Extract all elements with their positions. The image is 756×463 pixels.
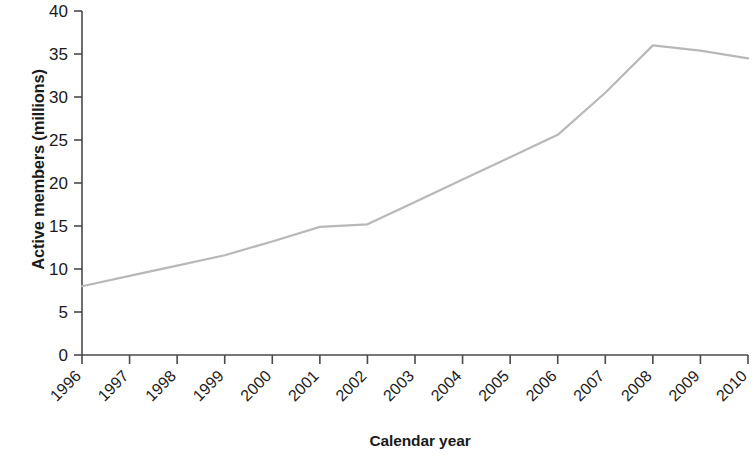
x-tick-label: 2009 (665, 367, 702, 404)
y-tick-label: 40 (49, 2, 68, 21)
x-tick-label: 2006 (523, 367, 560, 404)
x-tick-label: 2010 (713, 367, 750, 404)
x-tick-label: 1998 (142, 367, 179, 404)
x-tick-label: 2007 (570, 367, 607, 404)
x-tick-label: 1996 (47, 367, 84, 404)
y-tick-label: 20 (49, 174, 68, 193)
x-tick-label: 2003 (380, 367, 417, 404)
x-axis-tick-labels: 1996199719981999200020012002200320042005… (47, 367, 750, 404)
x-tick-label: 2004 (428, 367, 465, 404)
y-tick-label: 0 (59, 346, 68, 365)
chart-figure: Active members (millions) 05101520253035… (0, 0, 756, 463)
y-axis-tick-marks (74, 11, 82, 355)
x-tick-label: 2002 (332, 367, 369, 404)
x-tick-label: 2000 (237, 367, 274, 404)
y-axis-tick-labels: 0510152025303540 (49, 2, 68, 365)
x-axis-title-text: Calendar year (369, 432, 470, 450)
y-tick-label: 15 (49, 217, 68, 236)
line-chart-plot: 0510152025303540 19961997199819992000200… (0, 0, 756, 463)
y-tick-label: 5 (59, 303, 68, 322)
x-axis-tick-marks (82, 355, 748, 364)
x-tick-label: 1997 (95, 367, 132, 404)
x-axis-title: Calendar year (0, 432, 756, 450)
y-tick-label: 10 (49, 260, 68, 279)
y-tick-label: 25 (49, 131, 68, 150)
x-tick-label: 2001 (285, 367, 322, 404)
x-tick-label: 2008 (618, 367, 655, 404)
y-tick-label: 30 (49, 88, 68, 107)
y-tick-label: 35 (49, 45, 68, 64)
x-tick-label: 2005 (475, 367, 512, 404)
x-tick-label: 1999 (190, 367, 227, 404)
data-series-line (82, 45, 748, 286)
